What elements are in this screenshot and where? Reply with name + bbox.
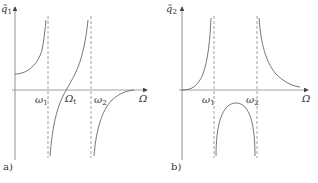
panel-a-omega-t-label: Ωt [65, 94, 76, 106]
panel-b-curve-branch-2 [216, 103, 255, 156]
panel-a-x-axis-label: Ω [139, 94, 147, 104]
panel-b-omega1-label: ω1 [202, 95, 215, 107]
panel-b-curve-branch-1 [182, 18, 211, 90]
panel-a-tag: a) [3, 162, 13, 172]
panel-a-omega1-label: ω1 [35, 95, 48, 107]
panel-b-curve-branch-3 [259, 18, 300, 87]
panel-b-tag: b) [171, 162, 181, 172]
panel-b-x-axis-label: Ω [302, 94, 310, 104]
panel-a-omega2-label: ω2 [94, 95, 107, 107]
panel-a-y-axis-label: q̃1 [1, 4, 12, 16]
panel-b-plot [179, 7, 308, 160]
panel-a-curve-branch-2 [50, 20, 88, 156]
diagram-canvas [0, 0, 318, 183]
panel-a-plot [12, 7, 147, 160]
panel-a-curve-branch-1 [15, 20, 46, 74]
panel-b-y-axis-label: q̃2 [166, 4, 177, 16]
panel-b-omega2-label: ω2 [246, 95, 259, 107]
